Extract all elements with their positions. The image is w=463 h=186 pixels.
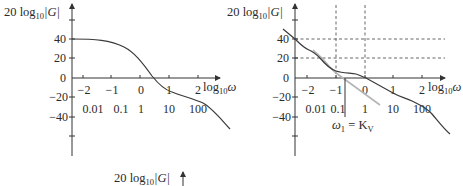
svg-text:−20: −20 [49,90,68,104]
svg-text:10: 10 [387,102,399,116]
svg-text:−2: −2 [302,83,315,97]
svg-text:0: 0 [138,83,144,97]
svg-text:−1: −1 [106,83,119,97]
svg-text:40: 40 [54,32,66,46]
svg-text:1: 1 [390,83,396,97]
svg-text:10: 10 [163,102,175,116]
svg-text:0.1: 0.1 [331,102,346,116]
right-bode-chart: 40 20 0 −20 −40 −2 −1 0 1 2 0.01 0.1 1 1… [227,4,461,156]
omega1-label: ω1 = KV [332,118,374,134]
svg-text:−40: −40 [272,110,291,124]
svg-text:20: 20 [277,51,289,65]
svg-text:0.01: 0.01 [83,102,104,116]
svg-text:−1: −1 [330,83,343,97]
svg-text:0.1: 0.1 [114,102,129,116]
svg-text:−2: −2 [78,83,91,97]
right-y-axis-label: 20 log10|G| [227,5,283,21]
svg-text:100: 100 [413,102,431,116]
svg-text:−20: −20 [272,90,291,104]
right-x-axis-label: log10ω [428,80,461,96]
left-omega-labels: 0.01 0.1 1 10 100 [83,102,208,116]
svg-text:1: 1 [138,102,144,116]
right-x-tick-labels: −2 −1 0 1 2 [302,83,425,97]
left-bode-chart: 40 20 0 −20 −40 −2 −1 0 1 2 0.01 0.1 1 1… [4,4,236,156]
svg-text:20: 20 [54,51,66,65]
left-y-tick-labels: 40 20 0 −20 −40 [49,32,68,124]
svg-text:2: 2 [419,83,425,97]
left-y-axis-label: 20 log10|G| [4,5,60,21]
right-y-tick-labels: 40 20 0 −20 −40 [272,32,291,124]
right-omega-labels: 0.01 0.1 1 10 100 [306,102,432,116]
right-reference-lines [295,5,445,78]
svg-text:40: 40 [277,32,289,46]
svg-text:0: 0 [283,71,289,85]
left-x-axis-label: log10ω [203,80,236,96]
svg-text:−40: −40 [49,110,68,124]
bode-plots: 40 20 0 −20 −40 −2 −1 0 1 2 0.01 0.1 1 1… [0,0,463,186]
svg-text:1: 1 [362,102,368,116]
bottom-bode-chart-partial: 20 log10|G| [114,171,183,186]
svg-text:0: 0 [60,71,66,85]
bottom-y-axis-label: 20 log10|G| [114,171,170,186]
svg-text:2: 2 [195,83,201,97]
svg-text:0.01: 0.01 [306,102,327,116]
left-x-tick-labels: −2 −1 0 1 2 [78,83,201,97]
